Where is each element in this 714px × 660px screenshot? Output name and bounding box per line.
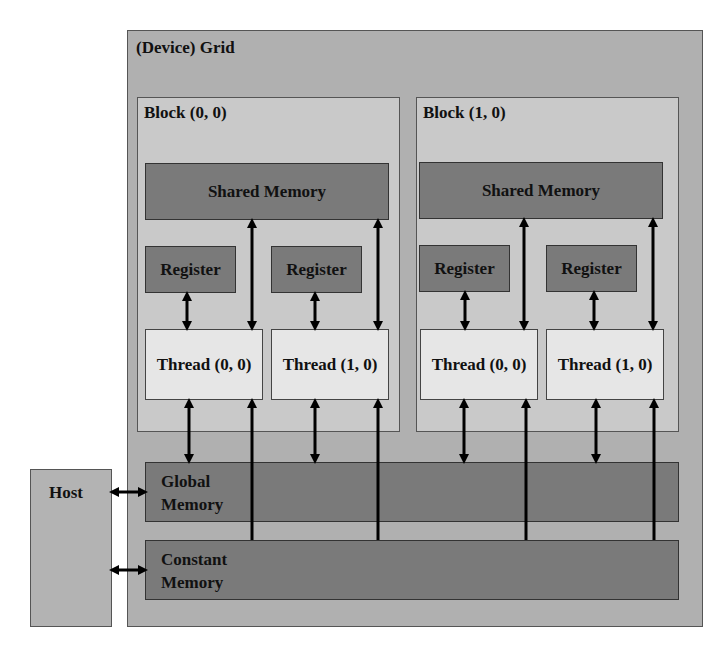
- connection-arrows: [0, 0, 714, 660]
